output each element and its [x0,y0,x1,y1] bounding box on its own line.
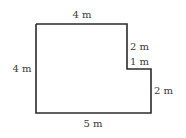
label-step: 1 m [130,56,150,67]
label-top: 4 m [72,9,92,20]
label-right-upper: 2 m [130,41,150,52]
label-left: 4 m [12,63,32,74]
label-right-lower: 2 m [154,85,174,96]
label-bottom: 5 m [83,118,103,129]
floor-plan-diagram: 4 m 4 m 5 m 2 m 1 m 2 m [0,0,186,138]
shape-outline [36,24,151,113]
